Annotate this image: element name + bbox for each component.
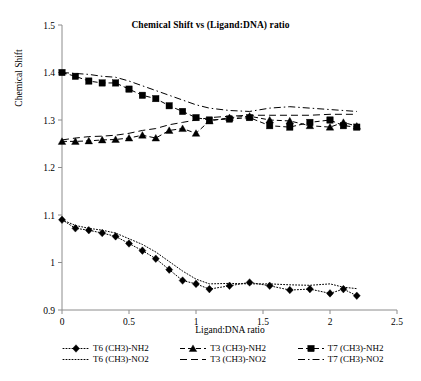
legend-swatch-line [297, 354, 325, 365]
legend-swatch-triangle [179, 343, 207, 354]
legend-item-t7-ch3-no2[interactable]: T7 (CH3)-NO2 [297, 354, 412, 365]
data-marker [99, 80, 105, 86]
legend-label: T6 (CH3)-NH2 [93, 343, 149, 354]
data-marker [246, 114, 252, 120]
series-line [62, 220, 357, 289]
y-tick-label: 1.5 [43, 21, 55, 31]
data-marker [179, 277, 186, 285]
y-tick-label: 1.3 [43, 116, 55, 126]
legend-item-t7-ch3-nh2[interactable]: T7 (CH3)-NH2 [297, 343, 412, 354]
data-marker [126, 240, 133, 248]
series-1 [59, 216, 361, 300]
series-2 [62, 220, 357, 289]
data-marker [192, 130, 200, 137]
data-marker [306, 285, 313, 293]
data-marker [193, 280, 200, 288]
data-marker [126, 86, 132, 92]
data-marker [226, 116, 232, 122]
data-marker [152, 255, 159, 263]
data-marker [139, 132, 147, 139]
data-marker [193, 114, 199, 120]
data-marker [139, 92, 145, 98]
data-marker [153, 95, 159, 101]
y-tick-label: 1.2 [43, 163, 55, 173]
data-marker [354, 124, 360, 130]
data-marker [179, 108, 185, 114]
legend-item-t6-ch3-no2[interactable]: T6 (CH3)-NO2 [62, 354, 177, 365]
data-marker [327, 117, 333, 123]
data-marker [246, 279, 253, 287]
chart-legend: T6 (CH3)-NH2T3 (CH3)-NH2T7 (CH3)-NH2T6 (… [62, 343, 412, 365]
data-marker [85, 226, 92, 234]
axes: 0.911.11.21.31.41.500.511.522.5 [43, 21, 403, 328]
chart-figure: Chemical Shift vs (Ligand:DNA) ratio 0.9… [0, 0, 421, 381]
series-5 [59, 69, 360, 130]
legend-label: T6 (CH3)-NO2 [93, 354, 149, 365]
y-axis-label: Chemical Shift [14, 28, 24, 128]
legend-label: T7 (CH3)-NO2 [328, 354, 384, 365]
series-6 [62, 73, 357, 112]
data-marker [166, 266, 173, 274]
legend-label: T7 (CH3)-NH2 [328, 343, 384, 354]
data-marker [206, 117, 212, 123]
legend-item-t3-ch3-no2[interactable]: T3 (CH3)-NO2 [179, 354, 294, 365]
data-marker [327, 290, 334, 298]
data-marker [139, 247, 146, 255]
legend-swatch-diamond [62, 343, 90, 354]
data-marker [353, 292, 360, 300]
data-marker [112, 80, 118, 86]
x-axis-label: Ligand:DNA ratio [62, 325, 398, 335]
y-tick-label: 1.4 [43, 68, 55, 78]
legend-marker [73, 345, 80, 353]
legend-label: T3 (CH3)-NO2 [210, 354, 266, 365]
data-marker [179, 125, 187, 132]
y-tick-label: 0.9 [43, 306, 55, 316]
data-marker [287, 124, 293, 130]
data-marker [286, 286, 293, 294]
series-line [62, 73, 357, 112]
legend-swatch-line [179, 354, 207, 365]
data-series-group [58, 69, 360, 299]
legend-label: T3 (CH3)-NH2 [210, 343, 266, 354]
data-marker [125, 134, 133, 141]
data-marker [307, 119, 313, 125]
data-marker [206, 285, 213, 293]
data-marker [340, 123, 346, 129]
legend-marker [307, 345, 313, 351]
y-tick-label: 1 [50, 258, 55, 268]
data-marker [86, 78, 92, 84]
y-tick-label: 1.1 [43, 211, 55, 221]
legend-swatch-square [297, 343, 325, 354]
legend-item-t6-ch3-nh2[interactable]: T6 (CH3)-NH2 [62, 343, 177, 354]
legend-item-t3-ch3-nh2[interactable]: T3 (CH3)-NH2 [179, 343, 294, 354]
data-marker [266, 282, 273, 290]
data-marker [166, 103, 172, 109]
plot-area: 0.911.11.21.31.41.500.511.522.5 [0, 0, 421, 381]
data-marker [267, 123, 273, 129]
legend-swatch-line [62, 354, 90, 365]
